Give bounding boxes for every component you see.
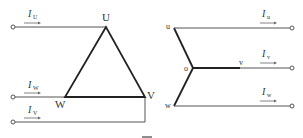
arrowhead-icon — [274, 62, 277, 65]
current-I-U: I U — [24, 8, 41, 25]
terminal-w-out — [290, 104, 294, 108]
delta-connection: U W V I U I W I V — [11, 8, 155, 124]
arrowhead-icon — [274, 22, 277, 25]
current-subscript: u — [267, 14, 270, 20]
arrowhead-icon — [38, 117, 41, 120]
current-I-W: I W — [24, 79, 41, 95]
current-subscript: W — [33, 85, 39, 91]
arrowhead-icon — [38, 92, 41, 95]
node-label-U: U — [102, 11, 110, 23]
current-symbol: I — [27, 8, 32, 19]
current-symbol: I — [27, 104, 32, 115]
terminal-v-out — [290, 66, 294, 70]
current-subscript: U — [33, 14, 38, 20]
terminal-v — [11, 120, 15, 124]
current-symbol: I — [27, 79, 32, 90]
terminal-w — [11, 95, 15, 99]
current-subscript: w — [267, 92, 272, 98]
current-I-w: I w — [260, 86, 277, 103]
terminal-u — [11, 25, 15, 29]
terminal-u-out — [290, 26, 294, 30]
node-label-o: o — [184, 64, 188, 73]
node-label-u: u — [166, 22, 170, 31]
winding-w — [174, 68, 193, 106]
current-symbol: I — [261, 8, 266, 19]
arrowhead-icon — [38, 22, 41, 25]
current-I-v: I v — [260, 48, 277, 65]
node-label-v: v — [239, 58, 243, 67]
delta-triangle — [65, 27, 145, 97]
current-I-u: I u — [260, 8, 277, 25]
current-subscript: V — [33, 110, 38, 116]
current-I-V: I V — [24, 104, 41, 120]
three-phase-connection-diagram: U W V I U I W I V — [0, 0, 303, 138]
current-symbol: I — [261, 86, 266, 97]
current-symbol: I — [261, 48, 266, 59]
arrowhead-icon — [274, 100, 277, 103]
node-label-W: W — [55, 98, 66, 110]
current-subscript: v — [267, 54, 270, 60]
node-label-w: w — [165, 101, 171, 110]
node-label-V: V — [147, 89, 155, 101]
winding-u — [174, 28, 193, 68]
star-connection: u o v w I u I v I w — [165, 8, 294, 110]
